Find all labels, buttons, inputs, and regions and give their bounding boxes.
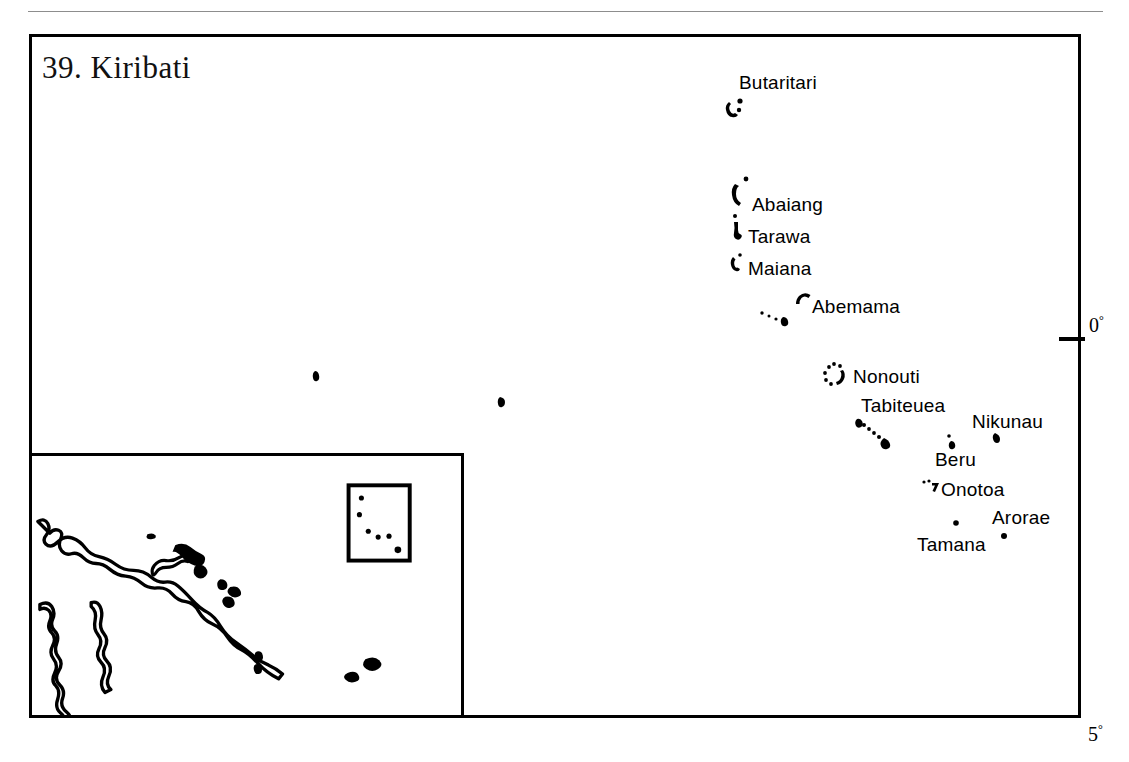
running-head-text — [640, 0, 1100, 8]
inset-locator-map — [29, 453, 464, 718]
island-label-tamana: Tamana — [917, 534, 986, 556]
degree-symbol: ° — [1098, 722, 1103, 736]
locator-dots — [357, 495, 401, 553]
island-label-nonouti: Nonouti — [853, 366, 920, 388]
island-label-nikunau: Nikunau — [972, 411, 1043, 433]
figure-page: 39. Kiribati 0° 5° — [0, 0, 1129, 762]
landmass-new-guinea — [38, 520, 283, 679]
page-title: 39. Kiribati — [42, 50, 191, 86]
latitude-label-south5: 5° — [1088, 722, 1103, 746]
landmass-australia-cape-york — [40, 603, 71, 715]
island-label-maiana: Maiana — [748, 258, 812, 280]
landmass-cape-york-east — [91, 602, 111, 692]
landmass-islet-north — [146, 533, 155, 539]
inset-map-svg — [32, 456, 461, 715]
island-label-onotoa: Onotoa — [941, 479, 1005, 501]
island-label-butaritari: Butaritari — [739, 72, 817, 94]
island-label-beru: Beru — [935, 449, 976, 471]
landmass-fiji — [344, 658, 381, 683]
latitude-label-equator: 0° — [1089, 313, 1104, 337]
landmass-solomon-islands — [194, 565, 242, 608]
island-label-abemama: Abemama — [812, 296, 900, 318]
degree-symbol: ° — [1099, 313, 1104, 327]
island-label-tabiteuea: Tabiteuea — [861, 395, 945, 417]
latitude-value-south5: 5 — [1088, 723, 1098, 745]
island-label-tarawa: Tarawa — [748, 226, 810, 248]
running-head-rule — [28, 11, 1103, 12]
island-label-arorae: Arorae — [992, 507, 1050, 529]
equator-tick — [1059, 337, 1085, 341]
latitude-value-equator: 0 — [1089, 314, 1099, 336]
island-label-abaiang: Abaiang — [752, 194, 823, 216]
